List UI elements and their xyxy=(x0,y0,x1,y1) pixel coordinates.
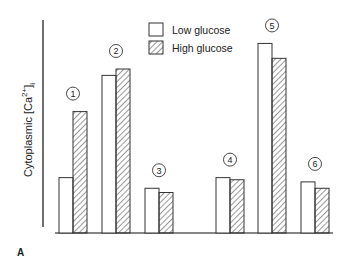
category-label: 6 xyxy=(312,159,317,169)
bar-high-glucose-1 xyxy=(73,112,87,233)
bar-group-5: 5 xyxy=(258,19,286,233)
bar-group-3: 3 xyxy=(145,164,173,233)
bar-low-glucose-6 xyxy=(301,182,315,233)
bar-low-glucose-4 xyxy=(216,178,230,233)
bar-low-glucose-3 xyxy=(145,188,159,233)
category-label: 4 xyxy=(227,155,232,165)
bar-group-2: 2 xyxy=(102,44,130,233)
legend-label-low-glucose: Low glucose xyxy=(172,24,231,36)
bar-high-glucose-6 xyxy=(315,188,329,233)
bar-high-glucose-2 xyxy=(116,69,130,233)
category-label: 2 xyxy=(113,46,118,56)
panel-label: A xyxy=(17,247,24,258)
bar-group-1: 1 xyxy=(59,87,87,233)
legend-label-high-glucose: High glucose xyxy=(172,42,233,54)
bar-low-glucose-2 xyxy=(102,75,116,233)
bar-high-glucose-5 xyxy=(272,58,286,233)
legend-swatch-low-glucose xyxy=(149,23,163,36)
category-label: 3 xyxy=(156,166,161,176)
bar-chart: Cytoplasmic [Ca2+]i 123456 Low glucose H… xyxy=(0,0,351,260)
y-axis-label: Cytoplasmic [Ca2+]i xyxy=(20,83,37,177)
category-label: 5 xyxy=(269,21,274,31)
bar-low-glucose-1 xyxy=(59,178,73,233)
bar-high-glucose-4 xyxy=(230,180,244,233)
bar-group-4: 4 xyxy=(216,153,244,233)
bar-group-6: 6 xyxy=(301,157,329,233)
bar-high-glucose-3 xyxy=(159,193,173,233)
legend: Low glucose High glucose xyxy=(149,23,233,54)
legend-swatch-high-glucose xyxy=(149,41,163,54)
category-label: 1 xyxy=(70,89,75,99)
bar-low-glucose-5 xyxy=(258,43,272,233)
